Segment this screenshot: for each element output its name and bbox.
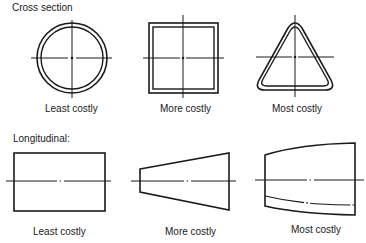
square-cost-label: More costly [160, 103, 211, 114]
triangle-cross-section [256, 15, 334, 97]
triangle-cost-label: Most costly [272, 103, 322, 114]
diagram-canvas: Cross section Least costly More costly [0, 0, 366, 243]
circle-cost-label: Least costly [45, 103, 98, 114]
cross-section-heading: Cross section [12, 2, 73, 13]
trapezoid-cost-label: More costly [165, 226, 216, 237]
rectangle-longitudinal [6, 153, 111, 211]
rectangle-cost-label: Least costly [33, 226, 86, 237]
curved-taper-cost-label: Most costly [291, 224, 341, 235]
longitudinal-heading: Longitudinal: [13, 133, 70, 144]
curved-taper-longitudinal [255, 143, 364, 215]
circle-cross-section [31, 20, 112, 98]
trapezoid-longitudinal [131, 153, 236, 210]
square-cross-section [143, 15, 224, 98]
